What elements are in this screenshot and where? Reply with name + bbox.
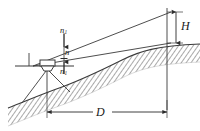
- lower-stadia-label: n1: [60, 67, 67, 76]
- distance-label: D: [96, 106, 105, 118]
- tacheometry-diagram: H D n1 n n1: [0, 0, 200, 131]
- instrument-body: [40, 60, 55, 66]
- instrument-base: [41, 66, 54, 71]
- upper-stadia-label: n1: [60, 26, 67, 35]
- lower-stadia-subscript: 1: [64, 70, 67, 76]
- middle-stadia-label: n: [65, 48, 69, 57]
- height-label: H: [181, 20, 190, 32]
- upper-stadia-subscript: 1: [64, 29, 67, 35]
